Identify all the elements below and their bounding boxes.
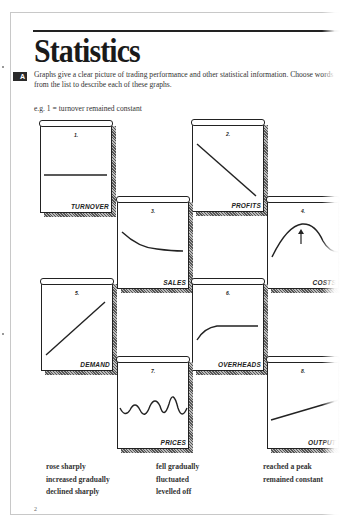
graph-number: 3.	[117, 208, 189, 214]
section-badge: A	[13, 72, 27, 81]
word-option: declined sharply	[46, 486, 110, 499]
graph-card-overheads: 6. OVERHEADS	[192, 278, 264, 371]
margin-mark	[2, 66, 4, 68]
graph-card-prices: 7. PRICES	[117, 356, 189, 449]
graph-label: PRICES	[161, 439, 186, 446]
page-number: 2	[34, 506, 37, 512]
graph-label: SALES	[163, 279, 186, 286]
graph-card-turnover: 1. TURNOVER	[40, 120, 112, 213]
page-title: Statistics	[34, 33, 140, 69]
graph-number: 5.	[41, 290, 113, 296]
word-option: fell gradually	[156, 461, 199, 474]
word-option: remained constant	[263, 474, 323, 487]
graph-label: TURNOVER	[71, 203, 109, 210]
graph-label: DEMAND	[80, 361, 110, 368]
instructions-text: Graphs give a clear picture of trading p…	[34, 70, 334, 89]
example-text: e.g. 1 = turnover remained constant	[34, 104, 142, 113]
graph-card-profits: 2. PROFITS	[192, 119, 264, 212]
word-option: reached a peak	[263, 461, 323, 474]
word-option: increased gradually	[46, 474, 110, 487]
margin-mark	[2, 333, 4, 335]
word-option: rose sharply	[46, 461, 110, 474]
graph-label: PROFITS	[231, 202, 261, 209]
word-option: levelled off	[156, 486, 199, 499]
graph-number: 2.	[192, 131, 264, 137]
graph-card-sales: 3. SALES	[117, 196, 189, 289]
word-list-column-3: reached a peak remained constant	[263, 461, 323, 486]
graph-card-demand: 5. DEMAND	[41, 278, 113, 371]
graph-number: 6.	[192, 290, 264, 296]
word-list-column-1: rose sharply increased gradually decline…	[46, 461, 110, 499]
graph-label: OVERHEADS	[218, 361, 261, 368]
page-edge-shadow	[322, 0, 340, 523]
graph-number: 1.	[40, 132, 112, 138]
word-option: fluctuated	[156, 474, 199, 487]
graph-number: 7.	[117, 368, 189, 374]
word-list-column-2: fell gradually fluctuated levelled off	[156, 461, 199, 499]
